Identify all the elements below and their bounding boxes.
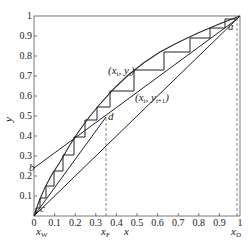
- x-tick: 0.6: [151, 217, 164, 228]
- y-tick: 0.4: [20, 130, 33, 141]
- y-tick: 0.6: [20, 90, 33, 101]
- x-axis-label: x: [123, 225, 129, 237]
- y-tick: 0.9: [20, 30, 33, 41]
- y-tick: 0.3: [20, 150, 33, 161]
- x-tick: 0.1: [48, 217, 61, 228]
- diagonal-line: [34, 16, 240, 216]
- point-c-label: c: [40, 202, 45, 214]
- y-tick: 1: [27, 10, 32, 21]
- diagram-canvas: 0.1 0.2 0.3 0.4 0.5 0.6 0.7 0.8 0.9 1 0 …: [0, 0, 248, 244]
- x-tick: 0.2: [69, 217, 82, 228]
- x-tick: 0.8: [193, 217, 206, 228]
- point-b-label: b: [29, 161, 35, 173]
- y-tick: 0.5: [20, 110, 33, 121]
- mccabe-thiele-diagram: 0.1 0.2 0.3 0.4 0.5 0.6 0.7 0.8 0.9 1 0 …: [0, 0, 248, 244]
- point-a-label: a: [228, 20, 234, 32]
- point-xi-yi-label: (xi, yi): [108, 64, 135, 78]
- y-tick: 0.7: [20, 70, 33, 81]
- x-axis-tick-labels: 0 0.1 0.2 0.3 0.4 0.5 0.6 0.7 0.8 0.9 1: [32, 217, 243, 228]
- point-d-label: d: [108, 110, 114, 122]
- xf-label: xF: [100, 225, 110, 239]
- y-axis-label: y: [2, 117, 14, 123]
- x-tick: 0.5: [131, 217, 144, 228]
- point-xi-yi1-label: (xi, yi+1): [135, 91, 169, 105]
- x-tick: 0.7: [172, 217, 185, 228]
- x-tick: 0.9: [213, 217, 226, 228]
- y-tick: 0.8: [20, 50, 33, 61]
- x-tick: 1: [238, 217, 243, 228]
- y-tick: 0.1: [20, 190, 33, 201]
- x-axis-ticks: [55, 213, 220, 216]
- xw-label: xW: [35, 225, 48, 239]
- x-tick: 0.4: [110, 217, 123, 228]
